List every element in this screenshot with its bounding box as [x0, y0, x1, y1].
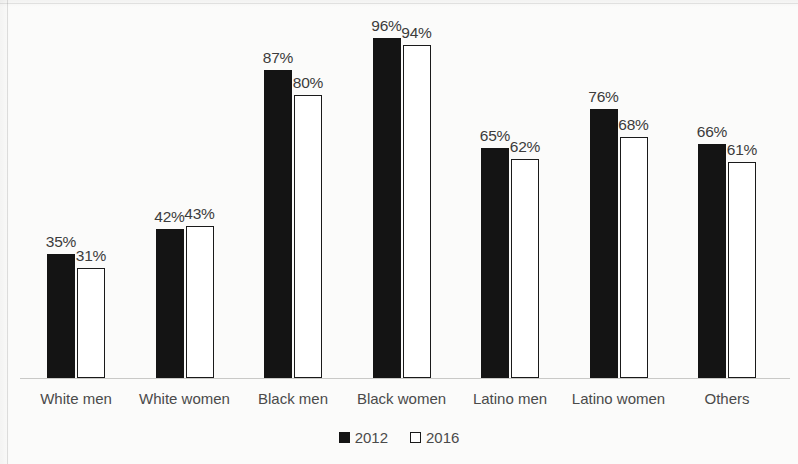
bar-value-label: 68% [609, 117, 659, 133]
bar-2016-black-men [294, 95, 322, 378]
bar-value-label: 80% [283, 75, 333, 91]
bar-2012-white-men [47, 254, 75, 378]
bar-2012-black-women [373, 38, 401, 378]
filled-square-icon [339, 432, 350, 443]
legend-label-2016: 2016 [426, 430, 459, 445]
bar-2016-latino-men [511, 159, 539, 378]
bar-2012-latino-men [481, 148, 509, 378]
category-label-others: Others [652, 391, 798, 408]
bar-value-label: 62% [500, 139, 550, 155]
bar-value-label: 76% [579, 89, 629, 105]
bar-2012-others [698, 144, 726, 378]
hollow-square-icon [410, 432, 421, 443]
bar-2016-others [728, 162, 756, 378]
legend-item-2016: 2016 [410, 430, 459, 445]
category-axis-line [20, 378, 790, 379]
bar-value-label: 31% [66, 248, 116, 264]
bar-2016-white-men [77, 268, 105, 378]
bar-value-label: 94% [392, 25, 442, 41]
bar-value-label: 87% [253, 50, 303, 66]
bar-2016-black-women [403, 45, 431, 378]
bar-2016-latino-women [620, 137, 648, 378]
bar-value-label: 61% [717, 142, 767, 158]
bar-2012-white-women [156, 229, 184, 378]
bar-2012-black-men [264, 70, 292, 378]
legend-item-2012: 2012 [339, 430, 388, 445]
legend-label-2012: 2012 [355, 430, 388, 445]
bar-value-label: 66% [687, 124, 737, 140]
bar-chart: 35%31%White men42%43%White women87%80%Bl… [0, 0, 798, 464]
bar-2012-latino-women [590, 109, 618, 378]
chart-legend: 2012 2016 [0, 430, 798, 445]
bar-value-label: 43% [175, 206, 225, 222]
bar-2016-white-women [186, 226, 214, 378]
plot-area: 35%31%White men42%43%White women87%80%Bl… [0, 0, 798, 464]
